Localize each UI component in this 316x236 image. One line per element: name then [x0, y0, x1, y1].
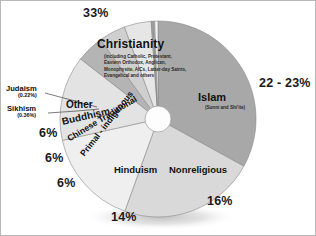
percent-label-buddhism: 6% — [39, 126, 57, 140]
slice-label-other: Other — [66, 99, 93, 110]
slice-label-islam: Islam — [198, 91, 226, 103]
sikhism-percent: (0.36%) — [7, 113, 36, 119]
chart-canvas: 33% 22 - 23% 16% 14% 6% 6% 6% Judaism (0… — [1, 1, 315, 235]
percent-label-islam: 22 - 23% — [259, 76, 311, 90]
pie-center-hole — [145, 106, 171, 132]
percent-label-primal-indigenous: 6% — [57, 176, 75, 190]
callout-judaism: Judaism (0.22%) — [6, 85, 37, 99]
slice-label-christianity: Christianity — [97, 37, 164, 51]
percent-label-hinduism: 14% — [111, 210, 137, 224]
slice-label-hinduism: Hinduism — [114, 164, 157, 175]
callout-sikhism: Sikhism (0.36%) — [7, 105, 36, 119]
judaism-percent: (0.22%) — [6, 93, 37, 99]
slice-sublabel-islam: (Sunni and Shi'ite) — [192, 105, 258, 110]
slice-sublabel-christianity: (including Catholic, Protestant, Eastern… — [104, 54, 188, 79]
percent-label-chinese-traditional: 6% — [45, 151, 63, 165]
slice-label-nonreligious: Nonreligious — [169, 164, 227, 175]
percent-label-nonreligious: 16% — [207, 194, 233, 208]
percent-label-christianity: 33% — [83, 6, 109, 20]
